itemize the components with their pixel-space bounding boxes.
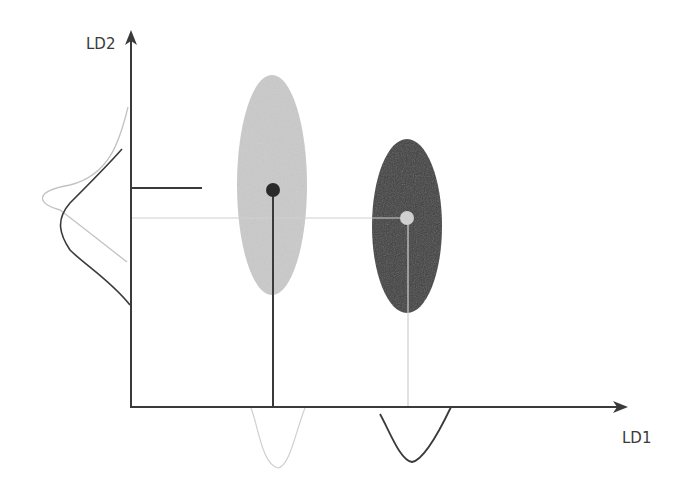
dark-class-ellipse bbox=[372, 139, 442, 313]
y-axis-label: LD2 bbox=[86, 35, 115, 53]
lda-diagram: LD2 LD1 bbox=[0, 0, 684, 488]
dark-class-centroid bbox=[400, 211, 414, 225]
ld2-light-distribution bbox=[43, 107, 129, 262]
light-class-centroid bbox=[266, 183, 280, 197]
ld1-light-distribution bbox=[251, 408, 305, 468]
ld1-dark-distribution bbox=[380, 407, 451, 462]
x-axis-label: LD1 bbox=[622, 429, 651, 447]
